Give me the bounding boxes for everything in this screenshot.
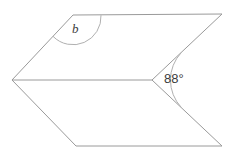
angle-label-88-degrees: 88° [164,72,184,85]
geometry-diagram-svg [0,0,231,158]
angle-label-b: b [72,22,79,35]
top-edge [73,14,222,15]
upper-right-edge [152,14,222,80]
lower-left-edge [12,80,76,146]
lower-right-edge [152,80,222,146]
geometry-figure: b 88° [0,0,231,158]
upper-left-edge [12,15,73,80]
figure-edges [12,14,222,146]
